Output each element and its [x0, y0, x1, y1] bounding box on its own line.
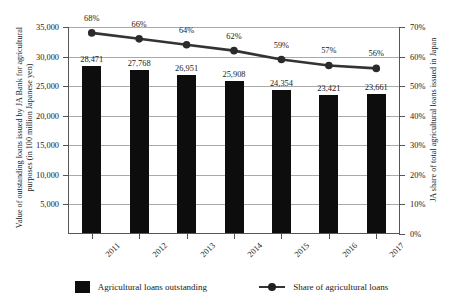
line-point-label: 59% [274, 41, 289, 50]
line-marker [325, 62, 333, 70]
x-axis-tick-label: 2011 [104, 241, 122, 259]
x-axis-tick [234, 233, 235, 239]
y-axis-right-tick-label: 60% [410, 52, 425, 61]
x-axis-tick-label: 2014 [246, 241, 264, 259]
line-marker [372, 65, 380, 73]
line-series [68, 27, 400, 234]
x-axis-tick [187, 233, 188, 239]
y-axis-left-tick-label: 35,000 [36, 23, 59, 32]
line-marker [183, 41, 191, 49]
y-axis-right-tick-label: 20% [410, 170, 425, 179]
chart-legend: Agricultural loans outstanding Share of … [0, 277, 463, 297]
axis-spine-right [399, 27, 400, 234]
y-axis-left-tick-label: 25,000 [36, 82, 59, 91]
x-axis-tick [329, 233, 330, 239]
line-point-label: 62% [226, 32, 241, 41]
x-axis-tick [376, 233, 377, 239]
legend-line-marker-icon [259, 281, 285, 293]
line-marker [88, 29, 96, 37]
legend-label-line: Share of agricultural loans [293, 282, 388, 292]
y-axis-right-title: JA share of total agricultural loans iss… [429, 4, 439, 236]
y-axis-left-tick-label: 30,000 [36, 52, 59, 61]
line-point-label: 56% [369, 49, 384, 58]
legend-item-bars: Agricultural loans outstanding [75, 281, 207, 293]
line-point-label: 68% [84, 14, 99, 23]
x-axis-tick-label: 2015 [293, 241, 311, 259]
y-axis-left-tick-label: 5,000 [40, 200, 59, 209]
y-axis-left-tick-label: 10,000 [36, 170, 59, 179]
line-marker [135, 35, 143, 43]
axis-spine-left [68, 27, 69, 234]
y-axis-left-tick-label: 15,000 [36, 141, 59, 150]
y-axis-right-tick-label: 70% [410, 23, 425, 32]
y-axis-right-tick-label: 40% [410, 111, 425, 120]
x-axis-tick [281, 233, 282, 239]
chart-container: Value of outstanding loans issued by JA … [0, 0, 463, 306]
line-marker [230, 47, 238, 55]
x-axis-tick-label: 2016 [341, 241, 359, 259]
line-marker [278, 56, 286, 64]
y-axis-right-tick [399, 234, 405, 235]
x-axis-tick [139, 233, 140, 239]
legend-square-swatch-icon [75, 281, 90, 293]
line-point-label: 66% [131, 20, 146, 29]
x-axis-tick-label: 2012 [151, 241, 169, 259]
line-point-label: 57% [321, 46, 336, 55]
y-axis-left-tick-label: 20,000 [36, 111, 59, 120]
x-axis-tick-label: 2013 [198, 241, 216, 259]
y-axis-right-tick-label: 30% [410, 141, 425, 150]
x-axis-tick [92, 233, 93, 239]
x-axis-tick-label: 2017 [388, 241, 406, 259]
plot-area: 5,00010,00015,00020,00025,00030,00035,00… [68, 27, 400, 234]
y-axis-left-title: Value of outstanding loans issued by JA … [15, 12, 34, 244]
legend-label-bars: Agricultural loans outstanding [98, 282, 207, 292]
y-axis-right-tick-label: 50% [410, 82, 425, 91]
y-axis-right-tick-label: 0% [410, 230, 421, 239]
y-axis-right-tick-label: 10% [410, 200, 425, 209]
line-point-label: 64% [179, 26, 194, 35]
legend-item-line: Share of agricultural loans [259, 281, 388, 293]
